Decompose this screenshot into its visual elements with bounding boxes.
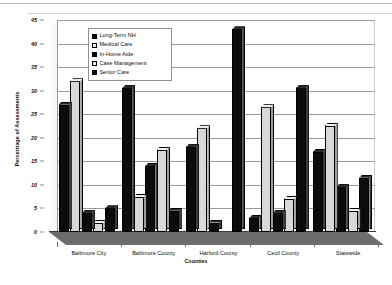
y-tick-mark [40,232,44,233]
bar-front-face [336,187,346,232]
y-tick-label: 45 [31,17,37,23]
y-tick-mark [40,184,44,185]
y-tick-mark [40,43,44,44]
bar-front-face [325,126,335,232]
bar [59,105,69,232]
bar-front-face [134,197,144,232]
x-tick-mark [57,242,58,247]
y-tick-label: 15 [31,158,37,164]
bar [348,211,358,232]
bar [296,88,306,232]
bar-side-face [92,210,95,229]
bar [145,166,155,232]
bar-side-face [283,210,286,229]
legend-swatch-icon [92,34,97,39]
bar-front-face [348,211,358,232]
bar-front-face [359,178,369,232]
x-category-label: Statewide [336,250,361,256]
bar-front-face [169,211,179,232]
x-tick-mark [314,242,315,247]
bar [284,199,294,232]
y-tick-mark [40,114,44,115]
x-category-label: Cecil County [267,250,299,256]
bar-front-face [82,213,92,232]
x-tick-mark [121,242,122,247]
bar [134,197,144,232]
bar [70,81,80,232]
bar-front-face [145,166,155,232]
bar-side-face [132,85,135,229]
y-tick-mark [40,208,44,209]
bar-front-face [105,208,115,232]
bar [325,126,335,232]
plot-floor [49,232,384,245]
y-tick-label: 35 [31,64,37,70]
legend-item: Case Management [92,59,168,68]
bar-side-face [144,194,147,229]
bar-front-face [313,152,323,232]
legend-item: In-Home Aide [92,50,168,59]
bar-side-face [294,196,297,229]
bar [261,107,271,232]
bar-side-face [271,104,274,229]
bar-side-face [369,175,372,229]
y-tick-label: 5 [34,205,37,211]
legend-item: Senior Care [92,68,168,77]
legend-swatch-icon [92,61,97,66]
bar-side-face [167,147,170,229]
bar-front-face [157,150,167,232]
bar-side-face [69,102,72,229]
bar-front-face [209,223,219,232]
bar-side-face [358,208,361,229]
y-tick-label: 0 [34,229,37,235]
bar [186,147,196,232]
y-tick-label: 40 [31,41,37,47]
legend-item: Long-Term NH [92,32,168,41]
y-axis-tick-labels: 051015202530354045 [22,14,44,239]
page-divider-top [0,3,392,4]
bar-side-face [155,163,158,229]
bar [105,208,115,232]
bar-side-face [80,78,83,229]
legend-label: Case Management [99,61,146,67]
bar [249,218,259,232]
x-category-label: Baltimore County [132,250,175,256]
y-tick-mark [40,20,44,21]
bar-front-face [59,105,69,232]
bar-front-face [232,29,242,232]
x-category-label: Baltimore City [71,250,106,256]
x-axis-title: Counties [0,258,392,264]
bar [336,187,346,232]
bar-side-face [115,205,118,229]
bar-front-face [186,147,196,232]
x-category-label: Harford County [199,250,237,256]
bar [169,211,179,232]
legend-label: Medical Care [99,42,132,48]
bar-chart: Percentage of Assessments 05101520253035… [0,14,392,282]
bar-front-face [122,88,132,232]
bar [82,213,92,232]
bar-side-face [242,26,245,229]
legend-item: Medical Care [92,41,168,50]
x-tick-mark [185,242,186,247]
bar-front-face [273,213,283,232]
bar [359,178,369,232]
bar-group [313,20,369,232]
bar-front-face [70,81,80,232]
bar [157,150,167,232]
bar [197,128,207,232]
y-axis-title: Percentage of Assessments [14,69,20,189]
bar-group [249,20,305,232]
bar-side-face [207,125,210,229]
bar [232,29,242,232]
bar-front-face [284,199,294,232]
y-tick-label: 10 [31,182,37,188]
x-tick-mark [250,242,251,247]
bar-side-face [179,208,182,229]
bar-side-face [306,85,309,229]
y-tick-label: 20 [31,135,37,141]
bar [273,213,283,232]
bar-front-face [261,107,271,232]
bar-front-face [296,88,306,232]
bar [209,223,219,232]
